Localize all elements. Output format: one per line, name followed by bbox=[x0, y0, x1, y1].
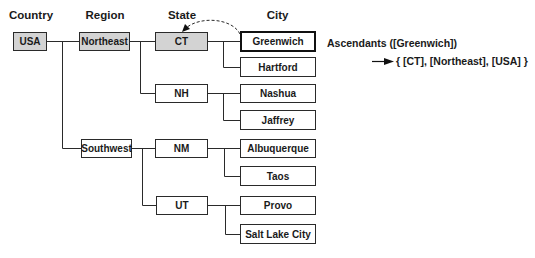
node-nm: NM bbox=[155, 139, 208, 158]
node-northeast: Northeast bbox=[79, 32, 130, 51]
node-usa: USA bbox=[13, 32, 47, 51]
ascendants-function-label: Ascendants ([Greenwich]) bbox=[327, 37, 457, 49]
node-nashua: Nashua bbox=[240, 84, 316, 103]
ascendants-result-label: { [CT], [Northeast], [USA] } bbox=[396, 55, 528, 67]
arrowhead-icon bbox=[182, 24, 190, 32]
node-salt-lake-city: Salt Lake City bbox=[240, 224, 316, 244]
node-albuquerque: Albuquerque bbox=[240, 139, 316, 158]
node-southwest: Southwest bbox=[81, 139, 132, 158]
node-hartford: Hartford bbox=[240, 57, 316, 77]
node-nh: NH bbox=[155, 84, 208, 103]
node-provo: Provo bbox=[240, 196, 316, 215]
node-taos: Taos bbox=[240, 166, 316, 186]
node-ut: UT bbox=[156, 196, 208, 215]
result-arrowhead-icon bbox=[384, 58, 394, 65]
node-ct: CT bbox=[155, 32, 208, 51]
node-jaffrey: Jaffrey bbox=[240, 110, 316, 130]
node-greenwich: Greenwich bbox=[240, 31, 316, 52]
